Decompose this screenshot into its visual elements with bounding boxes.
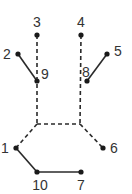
skeleton-diagram: 12345678910 (0, 0, 132, 194)
node-label-3: 3 (33, 14, 41, 30)
dashed-edges (16, 35, 103, 148)
node-label-4: 4 (77, 14, 85, 30)
node-dot-10 (34, 169, 39, 174)
node-dot-3 (34, 32, 39, 37)
node-dot-6 (100, 145, 105, 150)
node-label-2: 2 (3, 46, 11, 62)
solid-edge-1-10 (16, 148, 37, 172)
node-dot-7 (78, 169, 83, 174)
node-dot-5 (104, 51, 109, 56)
node-label-8: 8 (82, 64, 90, 80)
node-labels: 12345678910 (1, 14, 122, 193)
node-label-7: 7 (77, 177, 85, 193)
node-label-10: 10 (32, 177, 48, 193)
node-dot-2 (15, 51, 20, 56)
node-dots (13, 32, 109, 174)
node-dot-1 (13, 145, 18, 150)
node-label-5: 5 (114, 43, 122, 59)
node-dot-4 (78, 32, 83, 37)
node-dot-9 (34, 78, 39, 83)
dashed-edge-4-c-right (80, 35, 81, 124)
solid-edge-5-8 (87, 54, 107, 81)
solid-edge-2-9 (18, 54, 37, 81)
node-label-9: 9 (41, 66, 49, 82)
dashed-edge-c-left-1 (16, 124, 37, 148)
dashed-edge-c-right-6 (80, 124, 103, 148)
node-label-6: 6 (110, 140, 118, 156)
solid-edges (16, 54, 107, 172)
node-label-1: 1 (1, 140, 9, 156)
